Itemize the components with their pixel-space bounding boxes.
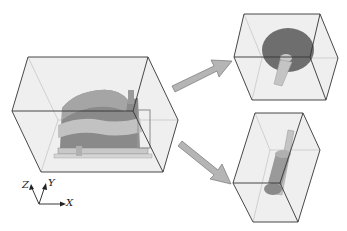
z-axis-label: Z (22, 179, 29, 190)
part-box-bottom (233, 113, 320, 222)
assembly-box (12, 57, 178, 172)
decomposition-diagram (0, 0, 347, 231)
arrow-to-bottom-part (178, 141, 231, 184)
y-axis-label: Y (48, 177, 55, 188)
part-box-top (234, 14, 338, 100)
x-axis-label: X (66, 197, 73, 208)
arrow-to-top-part (172, 60, 232, 92)
